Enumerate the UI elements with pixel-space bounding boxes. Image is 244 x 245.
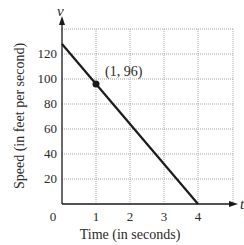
x-axis-title: Time (in seconds) xyxy=(80,227,181,243)
svg-text:2: 2 xyxy=(127,209,134,224)
y-axis-variable: v xyxy=(57,3,64,19)
svg-text:100: 100 xyxy=(38,71,58,86)
svg-text:20: 20 xyxy=(44,171,57,186)
svg-text:3: 3 xyxy=(161,209,168,224)
axes xyxy=(59,16,238,207)
grid xyxy=(62,29,233,204)
y-axis-title: Speed (in feet per second) xyxy=(12,43,28,189)
point-marker xyxy=(93,81,100,88)
svg-text:120: 120 xyxy=(38,46,58,61)
svg-text:0: 0 xyxy=(50,209,57,224)
x-axis-variable: t xyxy=(240,196,244,212)
svg-text:4: 4 xyxy=(195,209,202,224)
svg-text:40: 40 xyxy=(44,146,57,161)
speed-time-chart: (1, 96) 120 100 80 60 40 20 0 1 2 3 4 v … xyxy=(0,0,244,245)
x-tick-labels: 0 1 2 3 4 xyxy=(50,209,202,224)
svg-text:1: 1 xyxy=(93,209,100,224)
y-tick-labels: 120 100 80 60 40 20 xyxy=(38,46,58,186)
point-annotation: (1, 96) xyxy=(105,64,143,80)
svg-text:80: 80 xyxy=(44,96,57,111)
svg-text:60: 60 xyxy=(44,121,57,136)
